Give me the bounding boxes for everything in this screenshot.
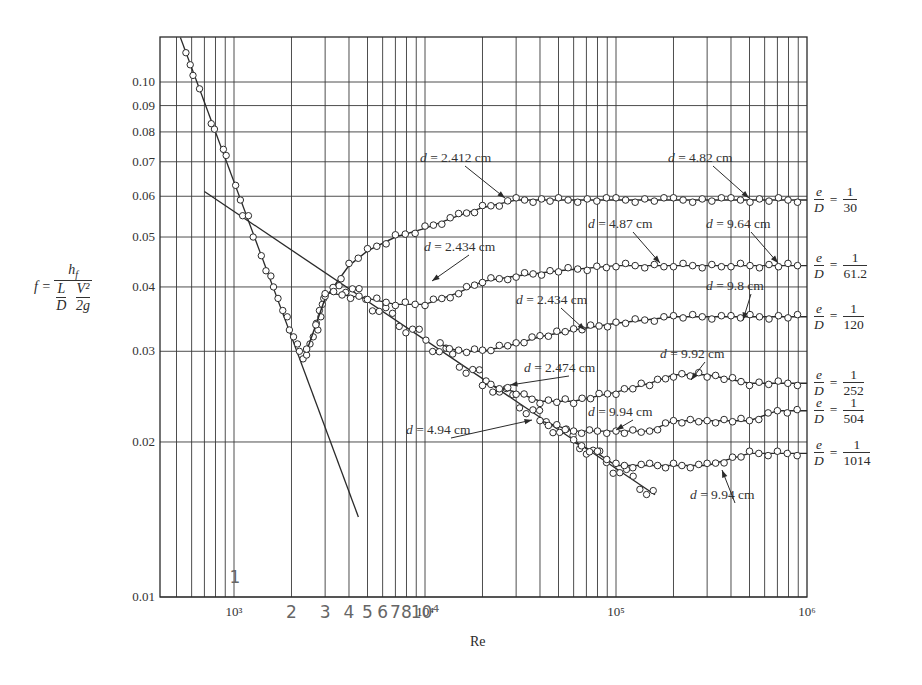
data-point [709, 198, 716, 205]
data-point [416, 326, 422, 332]
data-point [392, 232, 399, 239]
roughness-ratio: 1252 [843, 367, 863, 398]
data-point [610, 470, 616, 476]
data-point [622, 260, 629, 267]
data-point [513, 195, 520, 202]
data-point [513, 391, 520, 398]
data-point [294, 341, 300, 347]
roughness-ratio: 130 [843, 184, 857, 215]
data-point [774, 407, 781, 414]
data-point [538, 196, 545, 203]
data-point [621, 385, 628, 392]
data-point [268, 273, 274, 279]
data-point [280, 307, 286, 313]
data-point [784, 450, 791, 457]
data-point [695, 461, 702, 468]
handwritten-mark: 3 [320, 602, 331, 622]
data-point [463, 210, 470, 217]
data-point [709, 261, 716, 268]
data-point [270, 284, 276, 290]
data-point [339, 292, 346, 299]
data-point [587, 395, 594, 402]
data-point [746, 382, 753, 389]
data-point [330, 288, 337, 295]
data-point [617, 470, 623, 476]
data-point [687, 416, 694, 423]
data-point [504, 276, 511, 283]
data-point [355, 255, 362, 262]
data-point [641, 196, 648, 203]
data-point [661, 313, 668, 320]
data-point [632, 199, 639, 206]
y-label-f-sub: f [75, 269, 78, 280]
data-point [594, 428, 601, 435]
data-point [596, 390, 603, 397]
data-point [183, 49, 189, 55]
data-point [402, 299, 409, 306]
data-point [479, 382, 486, 389]
data-point [488, 202, 495, 209]
pipe-diameter-annotation: d = 2.474 cm [524, 360, 596, 375]
data-point [746, 417, 753, 424]
data-point [794, 199, 801, 206]
data-point [622, 320, 629, 327]
y-tick-label: 0.07 [132, 154, 155, 169]
data-point [349, 286, 355, 292]
data-point [604, 324, 611, 331]
data-point [496, 385, 503, 392]
data-point [470, 366, 476, 372]
e-over-D: eD [814, 395, 824, 426]
data-point [637, 486, 643, 492]
data-point [646, 460, 653, 467]
data-point [766, 198, 773, 205]
data-point [785, 260, 792, 267]
pipe-diameter-annotation: d = 9.8 cm [706, 278, 764, 293]
data-point [785, 315, 792, 322]
data-point [689, 199, 696, 206]
data-point [504, 384, 511, 391]
data-point [383, 241, 390, 248]
pipe-diameter-annotation: d = 4.94 cm [406, 422, 471, 437]
data-point [223, 152, 229, 158]
data-point [476, 367, 482, 373]
data-point [412, 230, 419, 237]
data-point [712, 460, 719, 467]
data-point [562, 328, 569, 335]
data-point [784, 410, 791, 417]
data-point [422, 223, 429, 230]
data-point [303, 346, 310, 353]
data-point [584, 196, 591, 203]
data-point [680, 315, 687, 322]
data-point [537, 417, 544, 424]
data-point [562, 426, 569, 433]
data-point [630, 464, 637, 471]
data-point [699, 314, 706, 321]
data-point [570, 436, 577, 443]
data-point [392, 302, 399, 309]
annotation-arrow [465, 166, 505, 198]
data-point [322, 290, 329, 297]
data-point [718, 263, 725, 270]
data-point [530, 407, 536, 413]
data-point [496, 275, 503, 282]
handwritten-mark: 4 [344, 602, 355, 622]
data-point [785, 197, 792, 204]
data-point [496, 342, 503, 349]
data-point [650, 487, 656, 493]
data-point [654, 376, 661, 383]
data-point [775, 263, 782, 270]
data-point [794, 452, 801, 459]
pipe-diameter-annotation: d = 2.434 cm [424, 239, 496, 254]
data-point [578, 430, 585, 437]
data-point [670, 460, 677, 467]
data-point [680, 260, 687, 267]
roughness-label: eD=130 [814, 184, 857, 215]
data-point [423, 337, 429, 343]
data-point [638, 461, 645, 468]
roughness-ratio: 11014 [843, 437, 870, 468]
data-point [402, 231, 409, 238]
data-point [245, 213, 251, 219]
y-tick-label: 0.02 [132, 434, 155, 449]
data-point [718, 195, 725, 202]
data-point [513, 340, 520, 347]
